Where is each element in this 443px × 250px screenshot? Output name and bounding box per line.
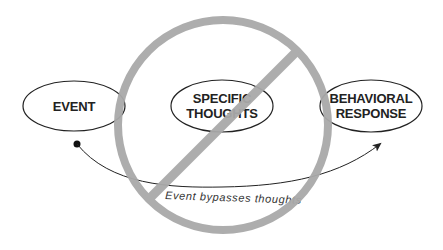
prohibition-slash (149, 51, 297, 199)
node-behavioral-response-line1: BEHAVIORAL (330, 91, 413, 106)
node-specific-thoughts-line2: THOUGHTS (186, 106, 258, 121)
diagram-canvas: EVENT SPECIFIC THOUGHTS BEHAVIORAL RESPO… (0, 0, 443, 250)
node-event-label: EVENT (53, 99, 96, 114)
edge-bypass-label: Event bypasses thoughts (165, 189, 302, 206)
node-behavioral-response: BEHAVIORAL RESPONSE (320, 80, 422, 132)
node-behavioral-response-line2: RESPONSE (336, 106, 407, 121)
node-event: EVENT (23, 81, 125, 131)
diagram-svg: EVENT SPECIFIC THOUGHTS BEHAVIORAL RESPO… (0, 0, 443, 250)
